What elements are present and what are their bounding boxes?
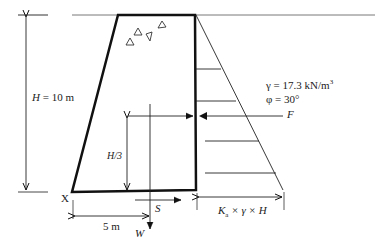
force-s-label: S bbox=[155, 203, 161, 214]
height-value: = 10 m bbox=[40, 91, 74, 103]
height-var: H bbox=[32, 91, 40, 103]
h3-label: H/3 bbox=[107, 151, 122, 161]
gamma-text: γ = 17.3 kN/m bbox=[266, 79, 330, 91]
point-x-label: X bbox=[61, 193, 69, 204]
gamma-label: γ = 17.3 kN/m3 bbox=[266, 79, 333, 91]
base-dimension bbox=[73, 200, 149, 219]
retaining-wall bbox=[72, 15, 196, 192]
retaining-wall-diagram: H = 10 m H/3 γ = 17.3 kN/m3 φ = 30° F X … bbox=[0, 0, 388, 249]
force-f-arrow bbox=[128, 112, 283, 120]
height-dimension bbox=[18, 17, 48, 192]
height-label: H = 10 m bbox=[32, 92, 74, 103]
force-w-label: W bbox=[135, 228, 144, 239]
force-f-label: F bbox=[287, 109, 294, 120]
diagram-graphics bbox=[0, 0, 388, 249]
pressure-rest: × γ × H bbox=[228, 204, 266, 216]
phi-label: φ = 30° bbox=[266, 94, 299, 105]
base-dimension-label: 5 m bbox=[103, 221, 120, 232]
gamma-exponent: 3 bbox=[330, 78, 334, 86]
rock-symbols bbox=[126, 21, 166, 45]
pressure-label: Ka × γ × H bbox=[218, 205, 267, 219]
